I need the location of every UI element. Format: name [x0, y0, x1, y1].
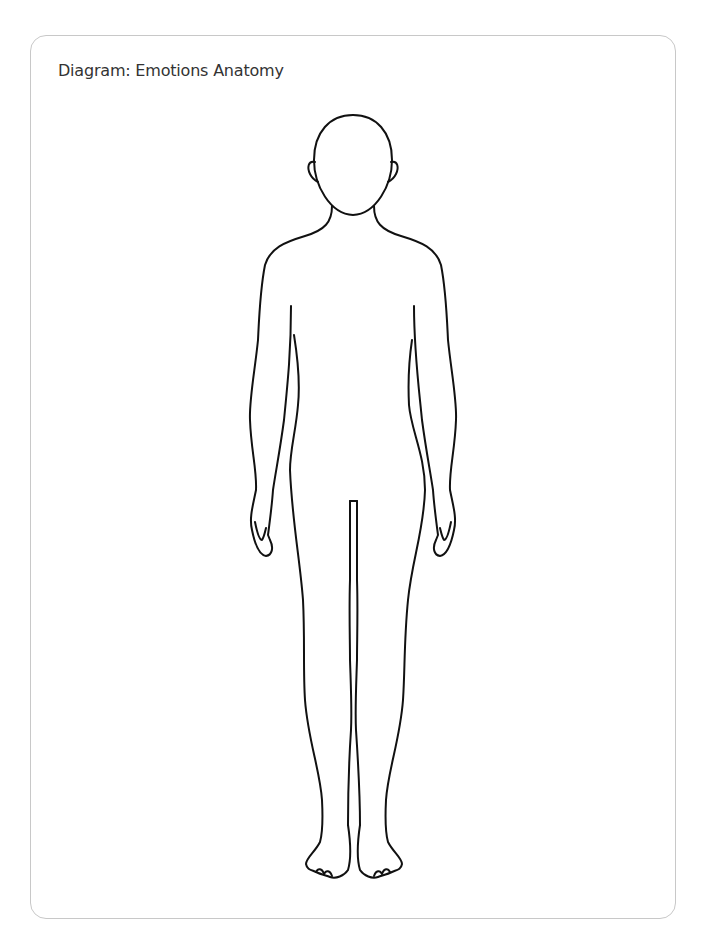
left-torso-side: [290, 335, 350, 878]
left-inner-leg: [348, 501, 351, 825]
right-thumb: [440, 522, 451, 540]
right-toes: [374, 869, 390, 876]
body-outline-figure: [0, 0, 706, 944]
right-arm-outline: [374, 206, 456, 556]
left-arm-outline: [250, 206, 332, 556]
right-inner-leg: [356, 501, 360, 825]
head-outline: [314, 115, 392, 215]
left-thumb: [255, 522, 266, 540]
right-torso-side: [358, 340, 425, 878]
